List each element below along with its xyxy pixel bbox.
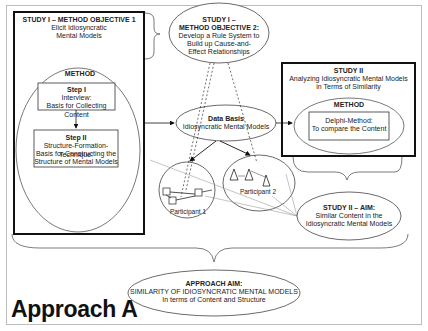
- step1-line2: Basis for Collecting Content: [38, 102, 115, 119]
- study2-aim-line2: Idiosyncratic Mental Models: [297, 220, 401, 229]
- study2-method-label: METHOD: [299, 101, 399, 110]
- step2-line3: Structure of Mental Models: [34, 158, 118, 167]
- objective2-line5: Effect Relationships: [169, 48, 269, 57]
- approach-aim-line2: In terms of Content and Structure: [128, 296, 300, 305]
- participant2-label: Participant 2: [228, 188, 288, 197]
- study2-box-line2: To compare the Content: [309, 125, 389, 134]
- approach-label: Approach A: [11, 296, 138, 323]
- study1-subtitle-2: Mental Models: [14, 32, 144, 41]
- study1-method-label: METHOD: [30, 70, 130, 79]
- participant1-label: Participant 1: [160, 208, 216, 217]
- data-basis-subtitle: Idiosyncratic Mental Models: [176, 123, 276, 132]
- study1-box: [14, 12, 144, 234]
- study2-line2: in Terms of Similarity: [282, 83, 415, 92]
